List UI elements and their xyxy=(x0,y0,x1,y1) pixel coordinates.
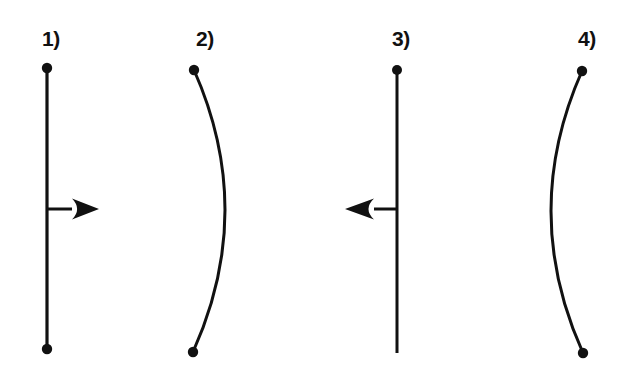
panel-label-3: 3) xyxy=(392,27,410,50)
top-endpoint-dot-1 xyxy=(42,63,52,73)
top-endpoint-dot-4 xyxy=(577,66,587,76)
figure-canvas: 1)2)3)4) xyxy=(0,0,630,365)
curve-4 xyxy=(551,71,583,353)
panel-label-1: 1) xyxy=(42,27,60,50)
panel-1: 1) xyxy=(42,27,99,354)
panel-label-2: 2) xyxy=(196,27,214,50)
figure-diagram: 1)2)3)4) xyxy=(0,0,630,365)
bottom-endpoint-dot-4 xyxy=(578,348,588,358)
top-endpoint-dot-3 xyxy=(392,65,402,75)
panel-3: 3) xyxy=(345,27,410,353)
panel-4: 4) xyxy=(551,27,596,358)
arrow-head-right-1 xyxy=(72,199,99,220)
curve-2 xyxy=(193,70,225,352)
panel-2: 2) xyxy=(188,27,225,357)
top-endpoint-dot-2 xyxy=(189,65,199,75)
bottom-endpoint-dot-1 xyxy=(42,344,52,354)
panel-label-4: 4) xyxy=(578,27,596,50)
arrow-head-left-3 xyxy=(345,199,374,220)
bottom-endpoint-dot-2 xyxy=(188,347,198,357)
